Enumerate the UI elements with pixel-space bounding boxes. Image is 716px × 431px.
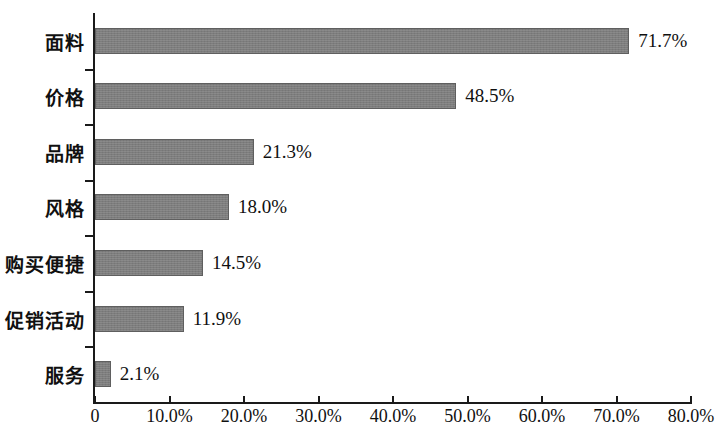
bar-value-label: 11.9% (193, 308, 241, 330)
x-axis-tick-label: 30.0% (295, 406, 342, 427)
category-label: 价格 (45, 83, 85, 110)
category-label: 促销活动 (5, 305, 85, 332)
category-label: 面料 (45, 27, 85, 54)
x-axis-tick (94, 396, 96, 404)
y-axis-tick (85, 180, 94, 182)
bar-row: 风格18.0% (0, 180, 716, 236)
x-axis-tick (541, 396, 543, 404)
bar-row: 促销活动11.9% (0, 291, 716, 347)
x-axis-tick-label: 80.0% (668, 406, 715, 427)
y-axis-tick (85, 346, 94, 348)
x-axis-tick (318, 396, 320, 404)
x-axis-tick (169, 396, 171, 404)
bar-value-label: 2.1% (120, 363, 160, 385)
x-axis-tick-label: 60.0% (519, 406, 566, 427)
x-axis-tick (243, 396, 245, 404)
category-label: 服务 (45, 361, 85, 388)
x-axis-tick-label: 20.0% (221, 406, 268, 427)
x-axis-tick (616, 396, 618, 404)
y-axis-tick (85, 291, 94, 293)
bar (95, 83, 456, 109)
x-axis-tick-label: 0 (91, 406, 100, 427)
bar-row: 价格48.5% (0, 69, 716, 125)
bar-row: 品牌21.3% (0, 124, 716, 180)
x-axis-tick-label: 50.0% (444, 406, 491, 427)
bar (95, 28, 629, 54)
bar (95, 194, 229, 220)
x-axis-tick-label: 70.0% (593, 406, 640, 427)
y-axis-tick (85, 69, 94, 71)
bar (95, 306, 184, 332)
bar-value-label: 18.0% (238, 196, 287, 218)
category-label: 购买便捷 (5, 250, 85, 277)
bar-value-label: 48.5% (465, 85, 514, 107)
y-axis-tick (85, 124, 94, 126)
bar-chart: 面料71.7%价格48.5%品牌21.3%风格18.0%购买便捷14.5%促销活… (0, 0, 716, 431)
x-axis-tick-label: 40.0% (370, 406, 417, 427)
bar-row: 面料71.7% (0, 13, 716, 69)
bar (95, 250, 203, 276)
bar-value-label: 21.3% (263, 141, 312, 163)
x-axis-tick (690, 396, 692, 404)
bar (95, 361, 111, 387)
bar-row: 服务2.1% (0, 346, 716, 402)
category-label: 品牌 (45, 138, 85, 165)
x-axis-tick (392, 396, 394, 404)
bar-value-label: 14.5% (212, 252, 261, 274)
x-axis-tick-label: 10.0% (146, 406, 193, 427)
category-label: 风格 (45, 194, 85, 221)
bar-value-label: 71.7% (638, 30, 687, 52)
y-axis-tick (85, 235, 94, 237)
x-axis-tick (467, 396, 469, 404)
bar (95, 139, 254, 165)
bar-row: 购买便捷14.5% (0, 235, 716, 291)
